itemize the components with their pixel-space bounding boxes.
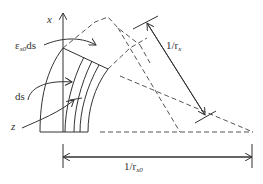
beam-bending-diagram: x εx0ds ds z 1/rx 1/rx0	[0, 0, 263, 184]
fiber-segment	[70, 98, 82, 100]
projection-line	[120, 76, 253, 132]
x-axis-label: x	[47, 14, 52, 25]
curvature-x-tick-bottom	[195, 111, 216, 123]
deformed-outline	[108, 38, 147, 69]
curvature-x-tick-top	[133, 16, 158, 29]
ds-label: ds	[15, 91, 25, 102]
curvature-x-dimension	[147, 23, 205, 115]
diagram-canvas	[0, 0, 263, 184]
projection-line	[140, 45, 150, 63]
ds-arrow	[28, 82, 72, 100]
element-left-edge	[40, 48, 63, 132]
fiber-line	[80, 65, 99, 132]
fiber-line	[74, 61, 92, 132]
element-top-edge	[63, 48, 108, 69]
curvature-x-label: 1/rx	[166, 40, 181, 53]
element-right-edge	[88, 69, 108, 132]
z-label: z	[11, 121, 15, 132]
strain-label: εx0ds	[15, 40, 36, 53]
curvature-x0-label: 1/rx0	[124, 161, 143, 174]
deformed-outline	[63, 17, 140, 48]
